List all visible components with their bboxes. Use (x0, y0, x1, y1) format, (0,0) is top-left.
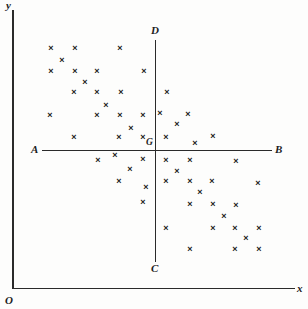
x-axis-label: x (297, 283, 303, 294)
scatter-point: × (255, 224, 263, 232)
scatter-point: × (115, 133, 123, 141)
scatter-point: × (184, 110, 192, 118)
scatter-point: × (116, 111, 124, 119)
scatter-point: × (186, 156, 194, 164)
scatter-point: × (140, 67, 148, 75)
scatter-point: × (163, 88, 171, 96)
scatter-point: × (255, 245, 263, 253)
line-label-c: C (151, 263, 158, 274)
scatter-point: × (173, 167, 181, 175)
scatter-point: × (111, 151, 119, 159)
scatter-point: × (162, 177, 170, 185)
scatter-point: × (46, 111, 54, 119)
scatter-point: × (196, 188, 204, 196)
scatter-point: × (254, 179, 262, 187)
scatter-point: × (139, 111, 147, 119)
scatter-point: × (47, 44, 55, 52)
line-label-a: A (31, 144, 38, 155)
scatter-point: × (209, 224, 217, 232)
y-axis-label: y (6, 0, 11, 11)
scatter-point: × (231, 245, 239, 253)
scatter-point: × (139, 155, 147, 163)
scatter-point: × (47, 67, 55, 75)
scatter-point: × (93, 111, 101, 119)
scatter-point: × (186, 245, 194, 253)
scatter-point: × (232, 157, 240, 165)
scatter-point: × (81, 78, 89, 86)
y-axis-line (12, 10, 14, 289)
scatter-point: × (117, 88, 125, 96)
scatter-point: × (173, 120, 181, 128)
centroid-label-g: G (146, 138, 153, 148)
scatter-point: × (71, 44, 79, 52)
scatter-point: × (162, 133, 170, 141)
scatter-point: × (232, 201, 240, 209)
scatter-point: × (242, 234, 250, 242)
scatter-diagram: y x O A B C D G ××××××××××××××××××××××××… (0, 0, 308, 309)
line-label-d: D (151, 25, 159, 36)
scatter-point: × (70, 88, 78, 96)
scatter-point: × (208, 177, 216, 185)
scatter-point: × (93, 67, 101, 75)
scatter-point: × (162, 224, 170, 232)
reference-line-ab (42, 150, 272, 152)
scatter-point: × (93, 88, 101, 96)
scatter-point: × (94, 156, 102, 164)
scatter-point: × (209, 132, 217, 140)
scatter-point: × (102, 101, 110, 109)
reference-line-cd (155, 40, 157, 262)
scatter-point: × (191, 139, 199, 147)
scatter-point: × (58, 56, 66, 64)
scatter-point: × (156, 109, 164, 117)
scatter-point: × (70, 133, 78, 141)
scatter-point: × (142, 183, 150, 191)
scatter-point: × (209, 200, 217, 208)
origin-label: O (5, 295, 13, 306)
scatter-point: × (186, 200, 194, 208)
scatter-point: × (126, 165, 134, 173)
scatter-point: × (116, 44, 124, 52)
scatter-point: × (231, 224, 239, 232)
scatter-point: × (127, 124, 135, 132)
scatter-point: × (220, 212, 228, 220)
scatter-point: × (115, 177, 123, 185)
x-axis-line (12, 288, 295, 290)
scatter-point: × (71, 67, 79, 75)
line-label-b: B (275, 144, 282, 155)
scatter-point: × (139, 198, 147, 206)
scatter-point: × (162, 156, 170, 164)
scatter-point: × (186, 177, 194, 185)
